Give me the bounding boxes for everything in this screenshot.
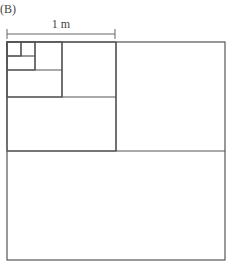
nested-squares-diagram (0, 0, 234, 270)
scale-bar (7, 29, 115, 39)
square-level-4 (7, 42, 21, 56)
